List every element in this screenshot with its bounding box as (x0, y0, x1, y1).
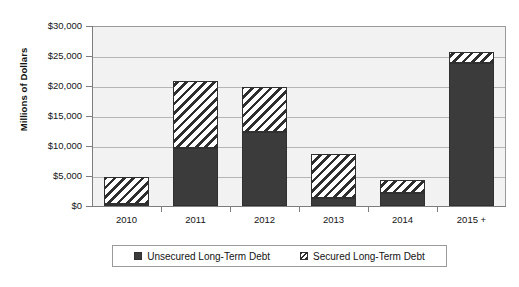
legend-label-secured: Secured Long-Term Debt (313, 251, 425, 262)
gridline (92, 57, 505, 58)
y-axis-tick (86, 206, 92, 207)
x-axis-tick (161, 207, 162, 212)
gridline (92, 117, 505, 118)
y-axis-tick-label: $0 (71, 201, 82, 211)
y-axis-tick-label: $30,000 (48, 21, 82, 31)
bar-2013[interactable] (311, 26, 357, 206)
y-axis-tick-label: $25,000 (48, 51, 82, 61)
bar-2011[interactable] (173, 26, 219, 206)
y-axis-line (92, 26, 93, 207)
bar-segment-secured[interactable] (173, 81, 219, 149)
bar-segment-unsecured[interactable] (173, 148, 219, 206)
x-axis-tick-label: 2013 (299, 214, 368, 225)
hatch-swatch-icon (300, 252, 308, 260)
y-axis-tick-label: $15,000 (48, 111, 82, 121)
x-axis-tick (230, 207, 231, 212)
gridline (92, 147, 505, 148)
bar-segment-unsecured[interactable] (104, 204, 150, 206)
x-axis-tick-label: 2015 + (437, 214, 506, 225)
x-axis-tick-label: 2010 (92, 214, 161, 225)
y-axis-title: Millions of Dollars (18, 15, 29, 165)
bar-segment-secured[interactable] (311, 154, 357, 198)
x-axis-tick-label: 2012 (230, 214, 299, 225)
x-axis-tick-label: 2011 (161, 214, 230, 225)
bar-2012[interactable] (242, 26, 288, 206)
y-axis-tick-label: $10,000 (48, 141, 82, 151)
legend-item-unsecured[interactable]: Unsecured Long-Term Debt (134, 251, 270, 262)
bar-segment-unsecured[interactable] (311, 198, 357, 206)
bar-segment-secured[interactable] (449, 52, 495, 63)
bar-segment-unsecured[interactable] (242, 132, 288, 206)
y-axis-tick-label: $5,000 (53, 171, 82, 181)
bar-segment-unsecured[interactable] (380, 193, 426, 206)
y-axis-tick (86, 26, 92, 27)
bar-2014[interactable] (380, 26, 426, 206)
x-axis-tick (437, 207, 438, 212)
plot-area (92, 26, 506, 206)
bar-segment-secured[interactable] (380, 180, 426, 193)
bar-2010[interactable] (104, 26, 150, 206)
y-axis-tick (86, 146, 92, 147)
gridline (92, 87, 505, 88)
chart-legend: Unsecured Long-Term Debt Secured Long-Te… (112, 245, 447, 267)
legend-label-unsecured: Unsecured Long-Term Debt (147, 251, 270, 262)
gridline (92, 177, 505, 178)
legend-item-secured[interactable]: Secured Long-Term Debt (300, 251, 425, 262)
bar-segment-unsecured[interactable] (449, 63, 495, 206)
stacked-bar-chart: Millions of Dollars $0$5,000$10,000$15,0… (0, 0, 519, 287)
y-axis-tick-label: $20,000 (48, 81, 82, 91)
solid-dark-swatch-icon (134, 252, 142, 260)
bar-segment-secured[interactable] (104, 177, 150, 204)
y-axis-tick (86, 86, 92, 87)
x-axis-tick (368, 207, 369, 212)
x-axis-tick (299, 207, 300, 212)
bar-segment-secured[interactable] (242, 87, 288, 131)
y-axis-tick (86, 176, 92, 177)
x-axis-tick-label: 2014 (368, 214, 437, 225)
bar-2015-[interactable] (449, 26, 495, 206)
y-axis-tick (86, 56, 92, 57)
y-axis-tick (86, 116, 92, 117)
